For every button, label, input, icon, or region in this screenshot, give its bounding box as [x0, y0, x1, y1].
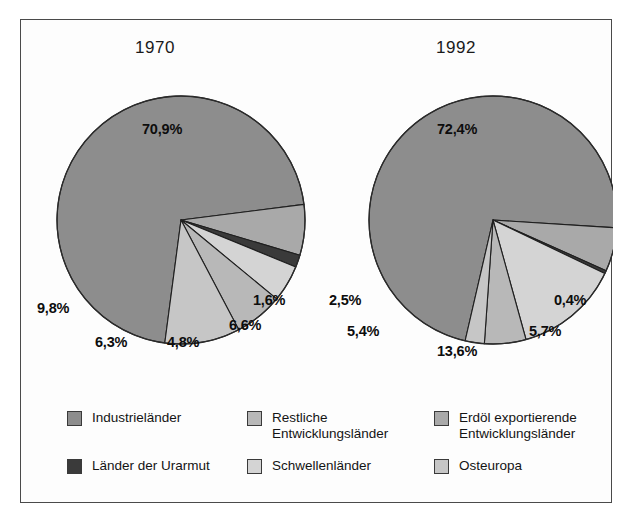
figure-frame: 1970 70,9% 9,8% 6,3% 4,8% 6,6% 1,6% 1992…	[20, 19, 612, 503]
legend-item-industrielaender: Industrieländer	[67, 410, 181, 426]
pie-svg-1970	[29, 20, 319, 360]
pct-label-erdoel-1992: 5,7%	[529, 323, 561, 339]
pct-label-erdoel-1970: 6,6%	[229, 317, 261, 333]
pct-label-industrie-1992: 72,4%	[437, 121, 477, 137]
legend-label-industrielaender: Industrieländer	[92, 410, 181, 426]
pct-label-restliche-1992: 5,4%	[347, 323, 379, 339]
pct-label-osteuropa-1970: 9,8%	[37, 300, 69, 316]
chart-legend: Industrieländer Restliche Entwicklungslä…	[21, 402, 613, 502]
legend-item-laender-der-urarmut: Länder der Urarmut	[67, 458, 210, 474]
legend-swatch-laender-der-urarmut	[67, 459, 82, 474]
charts-area: 1970 70,9% 9,8% 6,3% 4,8% 6,6% 1,6% 1992…	[21, 20, 613, 400]
legend-item-restliche-entwicklungslaender: Restliche Entwicklungsländer	[247, 410, 388, 441]
legend-swatch-industrielaender	[67, 411, 82, 426]
pct-label-restliche-1970: 6,3%	[95, 334, 127, 350]
legend-swatch-osteuropa	[434, 459, 449, 474]
pct-label-schwellen-1992: 13,6%	[437, 343, 477, 359]
pct-label-schwellen-1970: 4,8%	[167, 334, 199, 350]
legend-label-laender-der-urarmut: Länder der Urarmut	[92, 458, 210, 474]
legend-swatch-restliche-entwicklungslaender	[247, 411, 262, 426]
legend-label-osteuropa: Osteuropa	[459, 458, 522, 474]
pct-label-osteuropa-1992: 2,5%	[329, 292, 361, 308]
legend-item-schwellenlaender: Schwellenländer	[247, 458, 371, 474]
legend-swatch-erdoel-exportierende-entwicklungslaender	[434, 411, 449, 426]
legend-label-erdoel-exportierende-entwicklungslaender: Erdöl exportierende Entwicklungsländer	[459, 410, 577, 441]
pct-label-urarmut-1992: 0,4%	[554, 292, 586, 308]
legend-item-osteuropa: Osteuropa	[434, 458, 522, 474]
pie-svg-1992	[321, 20, 613, 360]
legend-label-restliche-entwicklungslaender: Restliche Entwicklungsländer	[272, 410, 388, 441]
legend-item-erdoel-exportierende-entwicklungslaender: Erdöl exportierende Entwicklungsländer	[434, 410, 577, 441]
legend-label-schwellenlaender: Schwellenländer	[272, 458, 371, 474]
pct-label-industrie-1970: 70,9%	[142, 121, 182, 137]
pct-label-urarmut-1970: 1,6%	[253, 292, 285, 308]
legend-swatch-schwellenlaender	[247, 459, 262, 474]
